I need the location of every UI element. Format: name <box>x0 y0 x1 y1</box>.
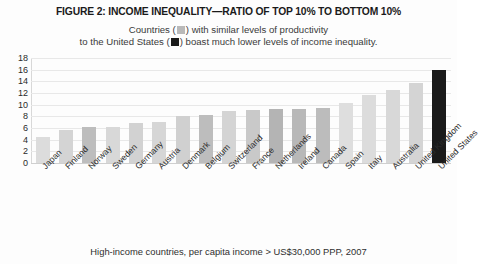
x-axis-category-labels: JapanFinlandNorwaySwedenGermanyAustriaDe… <box>31 164 451 240</box>
figure-subtitle: Countries () with similar levels of prod… <box>0 24 457 49</box>
legend-swatch-united-states-icon <box>171 38 179 46</box>
y-tick-18: 18 <box>18 54 28 63</box>
bar-australia <box>386 90 400 163</box>
y-axis-tick-labels: 024681012141618 <box>0 58 30 163</box>
bar-italy <box>362 95 376 163</box>
y-tick-8: 8 <box>23 112 28 121</box>
subtitle-text-us-before: to the United States ( <box>80 36 170 47</box>
subtitle-line-1: Countries () with similar levels of prod… <box>0 24 457 36</box>
y-tick-2: 2 <box>23 147 28 156</box>
y-tick-0: 0 <box>23 159 28 168</box>
y-tick-16: 16 <box>18 65 28 74</box>
y-tick-10: 10 <box>18 100 28 109</box>
figure-title: FIGURE 2: INCOME INEQUALITY—RATIO OF TOP… <box>0 6 457 17</box>
y-tick-12: 12 <box>18 89 28 98</box>
subtitle-text-us-after: ) boast much lower levels of income ineq… <box>180 36 378 47</box>
subtitle-line-2: to the United States () boast much lower… <box>0 36 457 48</box>
subtitle-text-countries-before: Countries ( <box>129 24 176 35</box>
y-tick-4: 4 <box>23 135 28 144</box>
legend-swatch-countries-icon <box>177 26 185 34</box>
y-tick-6: 6 <box>23 124 28 133</box>
figure-footnote: High-income countries, per capita income… <box>0 246 457 257</box>
y-tick-14: 14 <box>18 77 28 86</box>
subtitle-text-countries-after: ) with similar levels of productivity <box>186 24 328 35</box>
